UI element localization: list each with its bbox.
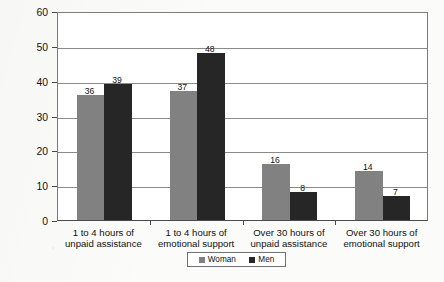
legend-entry-woman: Woman (199, 255, 236, 264)
category-label-4: Over 30 hours ofemotional support (343, 227, 419, 249)
y-tick-label-40: 40 (36, 76, 48, 87)
category-label-4-line-1: Over 30 hours of (343, 227, 419, 238)
bar-woman-group-2 (170, 91, 198, 220)
category-label-1-line-2: unpaid assistance (65, 238, 142, 249)
category-label-2-line-2: emotional support (158, 238, 234, 249)
category-label-3-line-1: Over 30 hours of (250, 227, 327, 238)
y-tick-label-50: 50 (36, 41, 48, 52)
x-tick-mark-2 (243, 221, 244, 225)
y-tick-mark-0 (52, 221, 57, 222)
bar-value-woman-group-1: 36 (85, 86, 95, 96)
bar-men-group-4 (383, 196, 411, 220)
bar-value-woman-group-2: 37 (178, 82, 188, 92)
category-label-2: 1 to 4 hours ofemotional support (158, 227, 234, 249)
y-tick-label-0: 0 (42, 216, 48, 227)
bar-value-men-group-1: 39 (112, 75, 122, 85)
category-label-3-line-2: unpaid assistance (250, 238, 327, 249)
bar-men-group-2 (197, 53, 225, 220)
bar-value-men-group-3: 8 (300, 183, 305, 193)
category-label-1-line-1: 1 to 4 hours of (65, 227, 142, 238)
category-label-1: 1 to 4 hours ofunpaid assistance (65, 227, 142, 249)
bar-men-group-3 (290, 192, 318, 220)
y-tick-label-10: 10 (36, 181, 48, 192)
gridline-50 (58, 48, 427, 49)
bar-woman-group-1 (77, 95, 105, 220)
legend-label-woman: Woman (208, 255, 236, 264)
legend-label-men: Men (258, 255, 274, 264)
category-label-2-line-1: 1 to 4 hours of (158, 227, 234, 238)
bar-woman-group-4 (355, 171, 383, 220)
bar-value-men-group-4: 7 (393, 187, 398, 197)
category-label-3: Over 30 hours ofunpaid assistance (250, 227, 327, 249)
x-tick-mark-3 (335, 221, 336, 225)
bar-woman-group-3 (262, 164, 290, 220)
bar-chart: Percentage of Those Caring for Parents o… (0, 0, 444, 282)
y-tick-label-60: 60 (36, 7, 48, 18)
x-tick-mark-1 (150, 221, 151, 225)
category-label-4-line-2: emotional support (343, 238, 419, 249)
plot-area (57, 12, 428, 221)
bar-value-men-group-2: 48 (205, 44, 215, 54)
bar-value-woman-group-3: 16 (270, 155, 280, 165)
bar-value-woman-group-4: 14 (363, 162, 373, 172)
y-tick-label-30: 30 (36, 111, 48, 122)
bar-men-group-1 (104, 84, 132, 220)
legend-swatch-woman (199, 257, 205, 263)
legend-entry-men: Men (249, 255, 274, 264)
y-tick-label-20: 20 (36, 146, 48, 157)
legend-swatch-men (249, 257, 255, 263)
chart-legend: WomanMen (187, 252, 286, 267)
